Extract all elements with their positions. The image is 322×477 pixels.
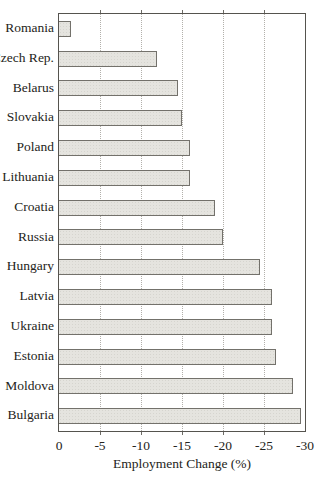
bar-bulgaria <box>59 408 301 424</box>
gridline--20 <box>223 14 224 431</box>
bar-poland <box>59 140 190 156</box>
bar-hungary <box>59 259 260 275</box>
x-tick-label--20: -20 <box>214 439 232 453</box>
bottom-tick--10 <box>141 432 142 435</box>
x-tick-label--5: -5 <box>94 439 105 453</box>
bottom-tick--5 <box>100 432 101 435</box>
bottom-tick--25 <box>264 432 265 435</box>
top-tick--10 <box>141 10 142 13</box>
bar-lithuania <box>59 170 190 186</box>
bottom-tick--20 <box>223 432 224 435</box>
gridline--25 <box>264 14 265 431</box>
category-label-bulgaria: Bulgaria <box>0 400 54 430</box>
employment-change-bar-chart: Employment Change (%) RomaniaCzech Rep.B… <box>0 0 322 477</box>
bar-russia <box>59 229 223 245</box>
bar-czech-rep- <box>59 51 157 67</box>
category-label-belarus: Belarus <box>0 73 54 103</box>
category-label-lithuania: Lithuania <box>0 162 54 192</box>
bar-ukraine <box>59 319 272 335</box>
bar-croatia <box>59 200 215 216</box>
category-label-poland: Poland <box>0 132 54 162</box>
category-label-estonia: Estonia <box>0 341 54 371</box>
gridline--5 <box>100 14 101 431</box>
x-tick-label--10: -10 <box>132 439 150 453</box>
category-label-latvia: Latvia <box>0 281 54 311</box>
bottom-tick--15 <box>182 432 183 435</box>
gridline--10 <box>141 14 142 431</box>
bar-slovakia <box>59 110 182 126</box>
category-label-hungary: Hungary <box>0 251 54 281</box>
x-tick-label--15: -15 <box>173 439 191 453</box>
category-label-czech-rep-: Czech Rep. <box>0 43 54 73</box>
category-label-romania: Romania <box>0 13 54 43</box>
plot-area <box>58 13 306 432</box>
top-tick--20 <box>223 10 224 13</box>
x-tick-label-0: 0 <box>56 439 63 453</box>
category-label-russia: Russia <box>0 222 54 252</box>
top-tick--15 <box>182 10 183 13</box>
bar-estonia <box>59 349 276 365</box>
bar-romania <box>59 21 71 37</box>
x-tick-label--25: -25 <box>255 439 273 453</box>
x-axis-title: Employment Change (%) <box>58 457 306 472</box>
bar-latvia <box>59 289 272 305</box>
top-tick--5 <box>100 10 101 13</box>
category-label-croatia: Croatia <box>0 192 54 222</box>
category-label-moldova: Moldova <box>0 370 54 400</box>
bar-moldova <box>59 378 293 394</box>
category-label-ukraine: Ukraine <box>0 311 54 341</box>
gridline--15 <box>182 14 183 431</box>
bar-belarus <box>59 80 178 96</box>
x-tick-label--30: -30 <box>296 439 314 453</box>
category-label-slovakia: Slovakia <box>0 102 54 132</box>
top-tick--25 <box>264 10 265 13</box>
